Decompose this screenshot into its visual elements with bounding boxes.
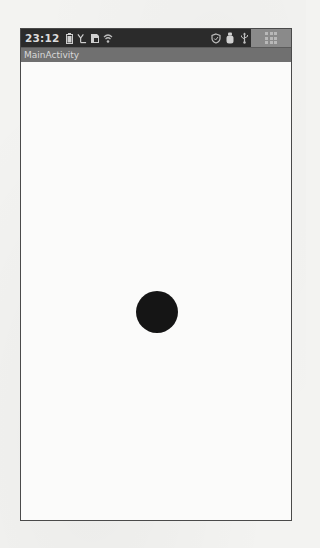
drawing-canvas[interactable] — [21, 62, 291, 520]
device-screen: 23:12 — [20, 28, 292, 521]
app-grid-icon — [265, 32, 277, 44]
status-right-icons — [211, 29, 249, 47]
battery-icon — [64, 32, 74, 44]
status-bar: 23:12 — [21, 29, 291, 47]
touch-circle[interactable] — [136, 291, 178, 333]
app-grid-button[interactable] — [251, 29, 291, 47]
usb-icon — [239, 32, 249, 44]
status-time: 23:12 — [25, 32, 59, 44]
sd-card-icon — [90, 32, 100, 44]
title-bar: MainActivity — [21, 47, 291, 62]
debug-icon — [225, 32, 235, 44]
signal-icon — [77, 32, 87, 44]
status-left-icons — [64, 32, 113, 44]
app-title: MainActivity — [24, 50, 79, 60]
shield-icon — [211, 32, 221, 44]
wifi-icon — [103, 32, 113, 44]
